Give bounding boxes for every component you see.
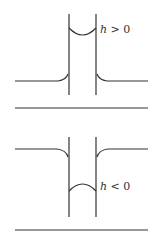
label-h-positive: h > 0 [100, 23, 130, 36]
liquid-surface-right [97, 74, 148, 81]
liquid-surface-left [15, 74, 68, 81]
label-h-negative: h < 0 [100, 180, 130, 193]
capillary-diagram [0, 0, 160, 231]
liquid-surface-left [15, 149, 68, 157]
liquid-surface-right [97, 149, 148, 157]
meniscus-concave [69, 28, 96, 35]
meniscus-convex [69, 184, 96, 191]
